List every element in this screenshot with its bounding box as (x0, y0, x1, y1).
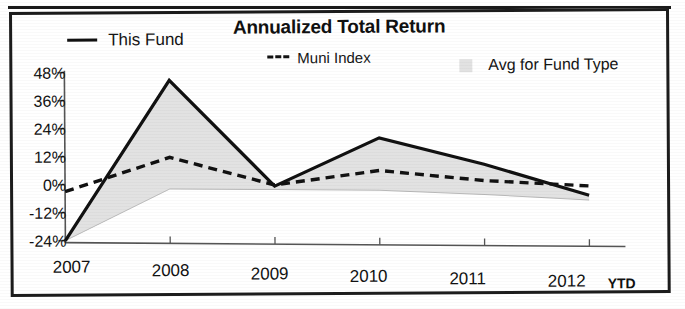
ytick-label-36: 36% (9, 93, 65, 111)
plot-area (12, 11, 674, 300)
xtick-label-2010: 2010 (334, 267, 404, 287)
xtick-label-2009: 2009 (235, 264, 305, 284)
avg-fund-type-band (64, 78, 589, 241)
xtick-label-2007: 2007 (37, 257, 107, 277)
ytick-label-48: 48% (9, 65, 65, 83)
ytick-label-neg24: -24% (10, 233, 66, 251)
xtick-label-2011: 2011 (433, 269, 503, 289)
ytick-label-12: 12% (10, 149, 66, 167)
annualized-total-return-chart-panel: Annualized Total Return This Fund Muni I… (9, 8, 671, 297)
ytick-label-24: 24% (10, 121, 66, 139)
ytick-label-neg12: -12% (10, 205, 66, 223)
xtick-label-2008: 2008 (136, 261, 206, 281)
xtick-label-2012: 2012 (532, 271, 602, 291)
xaxis-ytd-label: YTD (608, 275, 636, 291)
ytick-label-0: 0% (10, 177, 66, 195)
